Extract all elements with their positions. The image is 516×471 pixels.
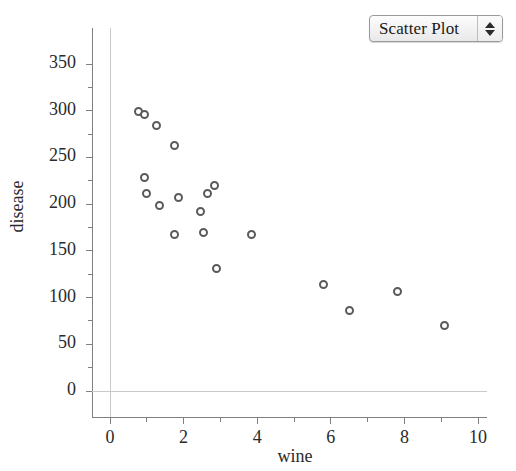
data-point: [155, 201, 164, 210]
data-point: [170, 141, 179, 150]
data-point: [196, 207, 205, 216]
data-point: [199, 228, 208, 237]
y-axis-tick-label: 150: [30, 239, 76, 260]
x-axis-title: wine: [240, 446, 350, 467]
x-axis-tick-label: 8: [389, 427, 419, 448]
y-axis-tick-label: 200: [30, 192, 76, 213]
plot-canvas: [0, 0, 516, 471]
x-axis-tick-label: 0: [95, 427, 125, 448]
data-point: [174, 193, 183, 202]
y-axis-tick-label: 50: [30, 332, 76, 353]
y-axis-tick-label: 350: [30, 52, 76, 73]
data-point: [393, 287, 402, 296]
data-point: [152, 121, 161, 130]
scatter-plot: disease wine 050100150200250300350 02468…: [0, 0, 516, 471]
x-axis-tick-label: 2: [169, 427, 199, 448]
x-axis-tick-label: 10: [463, 427, 493, 448]
y-axis-tick-label: 250: [30, 145, 76, 166]
y-axis-tick-label: 0: [30, 379, 76, 400]
y-axis-tick-label: 100: [30, 286, 76, 307]
data-point: [345, 306, 354, 315]
x-axis-tick-label: 4: [242, 427, 272, 448]
x-axis-tick-label: 6: [316, 427, 346, 448]
scatter-plot-window: Scatter Plot disease wine 05010015020025…: [0, 0, 516, 471]
y-axis-tick-label: 300: [30, 99, 76, 120]
data-point: [319, 280, 328, 289]
y-axis-title: disease: [7, 167, 28, 247]
